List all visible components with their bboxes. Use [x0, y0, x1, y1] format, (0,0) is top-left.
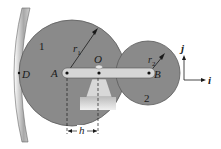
- point-A-dot: [65, 71, 68, 74]
- dimension-h-arrow-left: [68, 129, 72, 133]
- axis-j-label: j: [179, 42, 185, 54]
- point-B-label: B: [154, 68, 161, 80]
- point-A-label: A: [50, 67, 58, 79]
- pivot-O-bearing: [96, 65, 103, 69]
- point-O-label: O: [94, 53, 102, 65]
- point-D-dot: [18, 72, 20, 74]
- point-B-dot: [147, 71, 150, 74]
- gear-2-label: 2: [144, 92, 150, 104]
- axis-j-arrowhead: [182, 55, 186, 60]
- gear-mechanism-diagram: 1 2 r1 r2 A O B D h j i: [0, 0, 221, 149]
- point-D-label: D: [21, 68, 30, 80]
- point-O-dot: [97, 71, 100, 74]
- arm-AB: [62, 68, 155, 78]
- dimension-h-label: h: [79, 124, 85, 136]
- axis-i-label: i: [208, 74, 212, 86]
- dimension-h-arrow-right: [93, 129, 97, 133]
- gear-1-label: 1: [39, 40, 45, 52]
- axis-i-arrowhead: [201, 78, 206, 82]
